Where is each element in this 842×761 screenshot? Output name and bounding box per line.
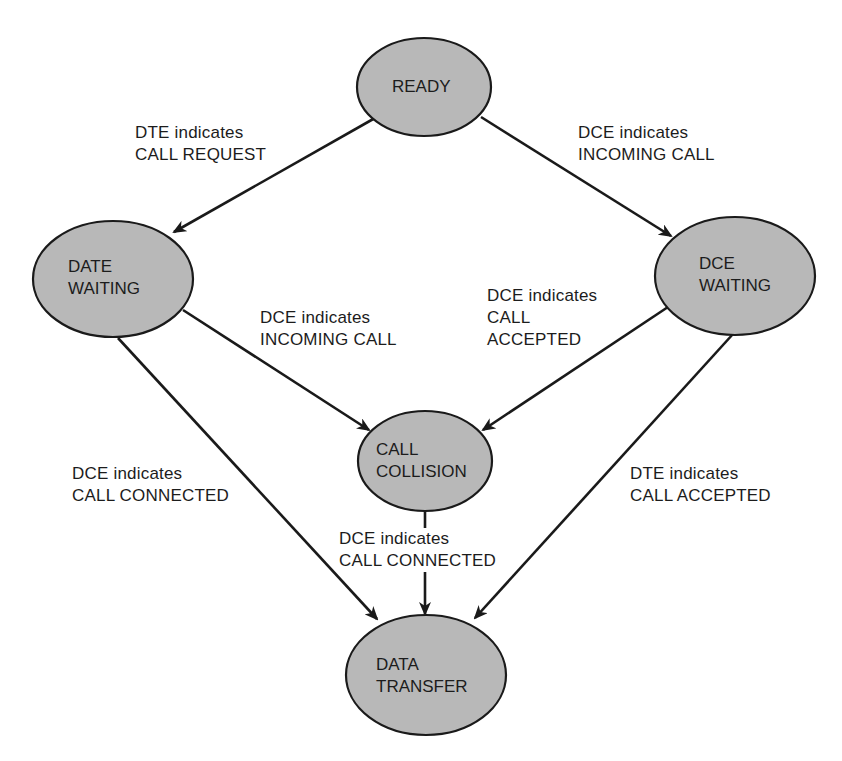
edge-label-call-accepted-dce: DCE indicates CALL ACCEPTED [487, 285, 597, 351]
node-dce-waiting-line1: DCE [699, 253, 771, 275]
edge-label-line: CALL REQUEST [135, 144, 266, 166]
edge-label-call-request: DTE indicates CALL REQUEST [135, 122, 266, 166]
edge-label-line: DCE indicates [72, 463, 229, 485]
node-data-transfer-line2: TRANSFER [376, 676, 468, 698]
node-label-date-waiting: DATE WAITING [68, 256, 140, 300]
node-label-ready: READY [392, 76, 451, 98]
edge-label-line: DTE indicates [630, 463, 771, 485]
node-call-collision-line1: CALL [376, 439, 467, 461]
node-data-transfer-line1: DATA [376, 654, 468, 676]
edge-label-line: INCOMING CALL [260, 329, 397, 351]
node-label-dce-waiting: DCE WAITING [699, 253, 771, 297]
edge-label-line: DCE indicates [578, 122, 715, 144]
edge-label-call-connected-left: DCE indicates CALL CONNECTED [72, 463, 229, 507]
edge-label-incoming-call-right: DCE indicates INCOMING CALL [578, 122, 715, 166]
edge-label-line: DCE indicates [260, 307, 397, 329]
edge-label-line: INCOMING CALL [578, 144, 715, 166]
node-ready-line1: READY [392, 76, 451, 98]
node-date-waiting-line1: DATE [68, 256, 140, 278]
node-label-data-transfer: DATA TRANSFER [376, 654, 468, 698]
edge-label-incoming-call-center: DCE indicates INCOMING CALL [260, 307, 397, 351]
edge-label-call-connected-center: DCE indicates CALL CONNECTED [339, 528, 496, 572]
edge-label-line: DCE indicates [339, 528, 496, 550]
edge-label-call-accepted-dte: DTE indicates CALL ACCEPTED [630, 463, 771, 507]
edge-label-line: CALL CONNECTED [339, 550, 496, 572]
state-diagram-canvas [0, 0, 842, 761]
edge-label-line: ACCEPTED [487, 329, 597, 351]
edge-label-line: DCE indicates [487, 285, 597, 307]
edge-label-line: DTE indicates [135, 122, 266, 144]
edge-label-line: CALL CONNECTED [72, 485, 229, 507]
edge-label-line: CALL ACCEPTED [630, 485, 771, 507]
node-dce-waiting-line2: WAITING [699, 275, 771, 297]
node-date-waiting-line2: WAITING [68, 278, 140, 300]
node-label-call-collision: CALL COLLISION [376, 439, 467, 483]
node-call-collision-line2: COLLISION [376, 461, 467, 483]
edge-label-line: CALL [487, 307, 597, 329]
